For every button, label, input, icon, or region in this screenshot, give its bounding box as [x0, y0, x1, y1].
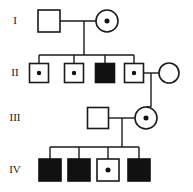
carrier-dot-II-1 [37, 71, 41, 75]
generation-label-IV: IV [9, 163, 21, 175]
carrier-dot-IV-3 [105, 167, 110, 172]
carrier-dot-II-4 [132, 71, 136, 75]
carrier-dot-I-2 [104, 18, 109, 23]
pedigree-chart: IIIIIIIV [0, 0, 193, 192]
individual-IV-1-male-affected[interactable] [39, 159, 61, 181]
pedigree-diagram: IIIIIIIV [0, 0, 193, 192]
generation-label-II: II [11, 66, 19, 78]
generation-label-III: III [10, 111, 21, 123]
individual-II-5-female-unaffected[interactable] [159, 63, 179, 83]
carrier-dot-III-2 [143, 115, 148, 120]
relationship-lines [39, 21, 159, 159]
individual-IV-4-male-affected[interactable] [128, 159, 150, 181]
generation-label-I: I [13, 14, 17, 26]
individual-II-3-male-affected[interactable] [96, 64, 115, 83]
individual-symbols [30, 10, 180, 181]
individual-IV-2-male-affected[interactable] [68, 159, 90, 181]
individual-III-1-male-unaffected[interactable] [88, 108, 109, 129]
carrier-dot-II-2 [72, 71, 76, 75]
individual-I-1-male-unaffected[interactable] [38, 10, 60, 32]
generation-labels: IIIIIIIV [9, 14, 21, 175]
